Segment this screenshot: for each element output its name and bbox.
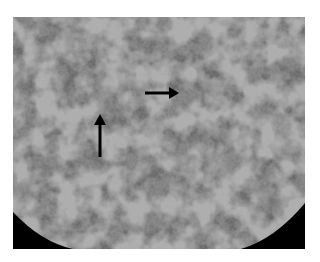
micrograph-image	[13, 17, 305, 249]
micrograph-texture	[13, 17, 305, 249]
figure-caption	[60, 254, 260, 262]
